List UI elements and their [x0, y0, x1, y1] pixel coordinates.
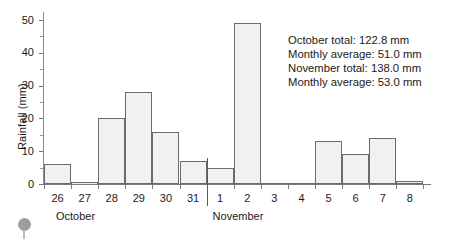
- month-label-november: November: [213, 211, 264, 222]
- x-axis-tick-label: 5: [315, 193, 342, 204]
- bar-november-5: [315, 141, 342, 184]
- rainfall-bar-chart: Rainfall (mm) 01020304050262728293031123…: [0, 0, 452, 239]
- x-axis-tick-label: 30: [152, 193, 179, 204]
- x-axis-tick-mark: [369, 185, 370, 189]
- month-label-october: October: [56, 211, 95, 222]
- x-axis-tick-label: 8: [396, 193, 423, 204]
- x-axis-tick-label: 4: [288, 193, 315, 204]
- y-axis-tick-mark: [39, 53, 43, 54]
- y-axis-tick-label: 50: [12, 15, 34, 26]
- x-axis-tick-mark: [261, 185, 262, 189]
- x-axis-tick-label: 28: [98, 193, 125, 204]
- x-axis-tick-mark: [315, 185, 316, 189]
- bar-october-30: [152, 132, 179, 184]
- x-axis-tick-mark: [125, 185, 126, 189]
- annotation-november-average: Monthly average: 53.0 mm: [288, 75, 422, 89]
- bar-november-7: [369, 138, 396, 184]
- bar-november-1: [207, 168, 234, 184]
- bar-november-2: [234, 23, 261, 184]
- bar-november-6: [342, 154, 369, 184]
- y-axis-tick-label: 30: [12, 80, 34, 91]
- pin-stem-icon: [23, 230, 25, 239]
- y-axis-tick-mark: [39, 151, 43, 152]
- y-axis-minor-tick: [40, 69, 43, 70]
- x-axis-tick-mark: [288, 185, 289, 189]
- bar-october-28: [98, 118, 125, 184]
- x-axis-tick-mark: [180, 185, 181, 189]
- x-axis-tick-label: 29: [125, 193, 152, 204]
- x-axis-tick-label: 26: [44, 193, 71, 204]
- x-axis-tick-label: 3: [261, 193, 288, 204]
- x-axis-tick-mark: [342, 185, 343, 189]
- y-axis-minor-tick: [40, 102, 43, 103]
- y-axis-minor-tick: [40, 36, 43, 37]
- x-axis-tick-mark: [152, 185, 153, 189]
- x-axis-tick-label: 6: [342, 193, 369, 204]
- x-axis-tick-mark: [71, 185, 72, 189]
- y-axis-tick-mark: [39, 86, 43, 87]
- y-axis-tick-mark: [39, 118, 43, 119]
- annotation-november-total: November total: 138.0 mm: [288, 61, 421, 75]
- x-axis-tick-mark: [234, 185, 235, 189]
- bar-october-26: [44, 164, 71, 184]
- x-axis-tick-label: 1: [207, 193, 234, 204]
- x-axis-tick-label: 7: [369, 193, 396, 204]
- x-axis-tick-mark: [423, 185, 424, 189]
- y-axis-tick-label: 0: [12, 179, 34, 190]
- bar-october-29: [125, 92, 152, 184]
- y-axis-tick-mark: [39, 20, 43, 21]
- x-axis-tick-label: 31: [180, 193, 207, 204]
- x-axis-tick-label: 2: [234, 193, 261, 204]
- x-axis-tick-mark: [44, 185, 45, 189]
- annotation-october-average: Monthly average: 51.0 mm: [288, 47, 422, 61]
- y-axis-tick-label: 40: [12, 47, 34, 58]
- x-axis-tick-label: 27: [71, 193, 98, 204]
- month-divider: [207, 158, 208, 206]
- y-axis-minor-tick: [40, 168, 43, 169]
- y-axis-tick-label: 20: [12, 113, 34, 124]
- x-axis-tick-mark: [98, 185, 99, 189]
- annotation-october-total: October total: 122.8 mm: [288, 33, 409, 47]
- bar-october-31: [180, 161, 207, 184]
- y-axis-tick-label: 10: [12, 146, 34, 157]
- y-axis-minor-tick: [40, 135, 43, 136]
- y-axis-line: [43, 12, 44, 184]
- x-axis-tick-mark: [396, 185, 397, 189]
